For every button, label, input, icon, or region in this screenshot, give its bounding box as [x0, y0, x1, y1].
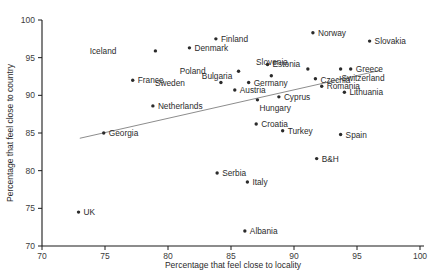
data-point-label: UK [84, 207, 96, 217]
data-point-marker [281, 129, 284, 132]
data-point-label: Sweden [155, 78, 185, 88]
data-point-label: Denmark [194, 43, 229, 53]
data-point-marker [349, 67, 352, 70]
data-point-marker [255, 122, 258, 125]
y-tick-label: 95 [26, 53, 36, 63]
data-point-label: Norway [318, 28, 347, 38]
x-axis-ticks: 707580859095100 [37, 246, 427, 261]
data-point-marker [315, 157, 318, 160]
data-point-marker [368, 39, 371, 42]
data-point-marker [306, 67, 309, 70]
y-tick-label: 90 [26, 90, 36, 100]
data-point-label: Austria [240, 85, 266, 95]
data-point-label: Serbia [222, 168, 246, 178]
x-tick-label: 100 [413, 251, 427, 261]
data-point-marker [219, 81, 222, 84]
data-point-label: Slovenia [256, 57, 288, 67]
data-point-label: B&H [322, 154, 339, 164]
data-point-marker [277, 95, 280, 98]
data-point-label: Turkey [288, 126, 314, 136]
y-tick-label: 85 [26, 128, 36, 138]
y-axis-title: Percentage that feel close to country [5, 63, 15, 202]
y-axis-ticks: 707580859095100 [21, 15, 42, 251]
data-point-label: Hungary [259, 103, 291, 113]
y-tick-label: 75 [26, 203, 36, 213]
data-point-marker [243, 229, 246, 232]
data-point-label: Cyprus [284, 92, 310, 102]
data-point-marker [215, 171, 218, 174]
data-point-label: Italy [252, 177, 268, 187]
x-tick-label: 75 [100, 251, 110, 261]
data-point-marker [247, 81, 250, 84]
data-point-label: Croatia [261, 119, 288, 129]
data-points: NorwaySlovakiaFinlandDenmarkIcelandEston… [77, 28, 407, 236]
data-point-label: Spain [346, 130, 368, 140]
data-point-label: Netherlands [158, 101, 203, 111]
y-tick-label: 100 [21, 15, 35, 25]
scatter-chart: 707580859095100 707580859095100 NorwaySl… [0, 0, 435, 273]
data-point-marker [131, 79, 134, 82]
data-point-label: Lithuania [349, 87, 383, 97]
data-point-marker [102, 131, 105, 134]
data-point-marker [343, 91, 346, 94]
data-point-marker [233, 88, 236, 91]
data-point-marker [188, 46, 191, 49]
data-point-marker [246, 180, 249, 183]
data-point-marker [339, 133, 342, 136]
y-tick-label: 80 [26, 166, 36, 176]
data-point-label: Albania [250, 226, 278, 236]
data-point-marker [151, 104, 154, 107]
data-point-label: Iceland [90, 46, 117, 56]
data-point-label: Georgia [109, 128, 139, 138]
data-point-marker [256, 98, 259, 101]
data-point-marker [154, 49, 157, 52]
x-tick-label: 95 [352, 251, 362, 261]
data-point-label: Slovakia [375, 36, 407, 46]
data-point-marker [77, 210, 80, 213]
data-point-marker [314, 77, 317, 80]
y-tick-label: 70 [26, 241, 36, 251]
data-point-marker [214, 37, 217, 40]
data-point-marker [320, 85, 323, 88]
data-point-marker [339, 67, 342, 70]
plot-area: 707580859095100 707580859095100 NorwaySl… [0, 0, 435, 273]
x-tick-label: 70 [37, 251, 47, 261]
data-point-label: Bulgaria [202, 71, 233, 81]
data-point-marker [237, 70, 240, 73]
data-point-marker [311, 31, 314, 34]
x-axis-title: Percentage that feel close to locality [165, 260, 302, 270]
